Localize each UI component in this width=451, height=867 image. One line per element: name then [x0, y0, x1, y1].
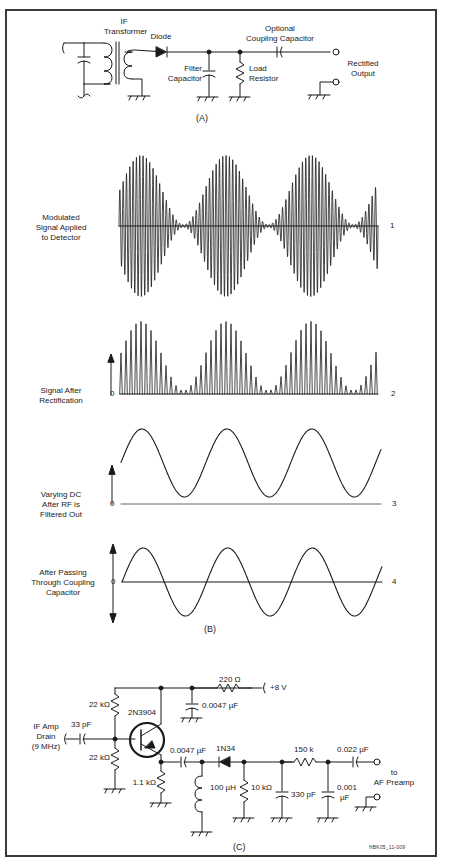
if-transformer-label-line2: Transformer	[104, 27, 144, 37]
filter-capacitor-label-line2: Capacitor	[164, 74, 202, 84]
c-out-label: 0.022 µF	[337, 745, 369, 755]
wave4-label-line3: Capacitor	[28, 588, 98, 598]
input-label-line2: Drain	[28, 732, 64, 742]
wave4-zero: 0	[111, 577, 115, 586]
wave3-label-line3: Filtered Out	[30, 510, 92, 520]
wave3-label: Varying DC After RF is Filtered Out	[30, 490, 92, 520]
wave1-label-line3: to Detector	[30, 233, 92, 243]
c-filter2-label-line2: µF	[337, 793, 357, 803]
c-bypass-label: 0.0047 µF	[202, 701, 238, 711]
coupling-capacitor-label-line2: Coupling Capacitor	[240, 34, 320, 44]
load-resistor-label-line1: Load	[249, 64, 278, 74]
supply-label: +8 V	[270, 683, 287, 693]
wave2-label-line1: Signal After	[30, 386, 92, 396]
if-transformer-label-line1: IF	[104, 17, 144, 27]
c-filter2-label-line1: 0.001	[337, 783, 357, 793]
r-bias-bottom-label: 22 kΩ	[78, 753, 110, 763]
wave2-label-line2: Rectification	[30, 396, 92, 406]
output-af-label-line2: AF Preamp	[369, 778, 419, 788]
wave1-label-line1: Modulated	[30, 213, 92, 223]
wave2-number: 2	[391, 389, 395, 398]
rectified-output-label-line1: Rectified	[338, 59, 388, 69]
r-filter-label: 150 k	[294, 745, 314, 755]
wave2-zero: 0	[110, 389, 114, 398]
wave4-label: After Passing Through Coupling Capacitor	[28, 568, 98, 598]
wave1-label-line2: Signal Applied	[30, 223, 92, 233]
r-supply-label: 220 Ω	[219, 675, 241, 685]
output-af-label: to AF Preamp	[369, 768, 419, 788]
load-resistor-label: Load Resistor	[249, 64, 278, 84]
r-bias-top-label: 22 kΩ	[78, 700, 110, 710]
wave1-label: Modulated Signal Applied to Detector	[30, 213, 92, 243]
input-label: IF Amp Drain (9 MHz)	[28, 722, 64, 752]
r-emitter-label: 1.1 kΩ	[124, 778, 156, 788]
wave4-label-line1: After Passing	[28, 568, 98, 578]
wave3-number: 3	[392, 499, 396, 508]
wave4-label-line2: Through Coupling	[28, 578, 98, 588]
filter-capacitor-label-line1: Filter	[164, 64, 202, 74]
inductor-label: 100 µH	[210, 783, 236, 793]
if-transformer-label: IF Transformer	[104, 17, 144, 37]
figure-credit: HBK05_11-009	[369, 844, 405, 850]
diode-label: Diode	[146, 32, 176, 42]
panel-c-caption: (C)	[233, 842, 246, 852]
c-in-label: 33 pF	[71, 720, 91, 730]
wave2-rectified-signal	[120, 321, 378, 394]
wave1-number: 1	[390, 221, 394, 230]
r-load-label: 10 kΩ	[251, 783, 272, 793]
wave2-label: Signal After Rectification	[30, 386, 92, 406]
rectified-output-label: Rectified Output	[338, 59, 388, 79]
c-couple-label: 0.0047 µF	[170, 746, 206, 756]
diode-1n34-label: 1N34	[216, 744, 235, 754]
transistor-label: 2N3904	[128, 708, 156, 718]
c-filter1-label: 330 pF	[291, 790, 316, 800]
wave3-label-line2: After RF is	[30, 500, 92, 510]
panel-a-caption: (A)	[196, 113, 208, 123]
filter-capacitor-label: Filter Capacitor	[164, 64, 202, 84]
wave3-zero: 0	[110, 499, 114, 508]
input-label-line1: IF Amp	[28, 722, 64, 732]
wave4-number: 4	[392, 577, 396, 586]
load-resistor-label-line2: Resistor	[249, 74, 278, 84]
output-af-label-line1: to	[369, 768, 419, 778]
coupling-capacitor-label: Optional Coupling Capacitor	[240, 24, 320, 44]
wave3-label-line1: Varying DC	[30, 490, 92, 500]
coupling-capacitor-label-line1: Optional	[240, 24, 320, 34]
schematic-drawing	[0, 0, 451, 867]
wave3-varying-dc	[121, 429, 381, 497]
input-label-line3: (9 MHz)	[28, 742, 64, 752]
panel-b-caption: (B)	[204, 624, 216, 634]
c-filter2-label: 0.001 µF	[337, 783, 357, 803]
rectified-output-label-line2: Output	[338, 69, 388, 79]
